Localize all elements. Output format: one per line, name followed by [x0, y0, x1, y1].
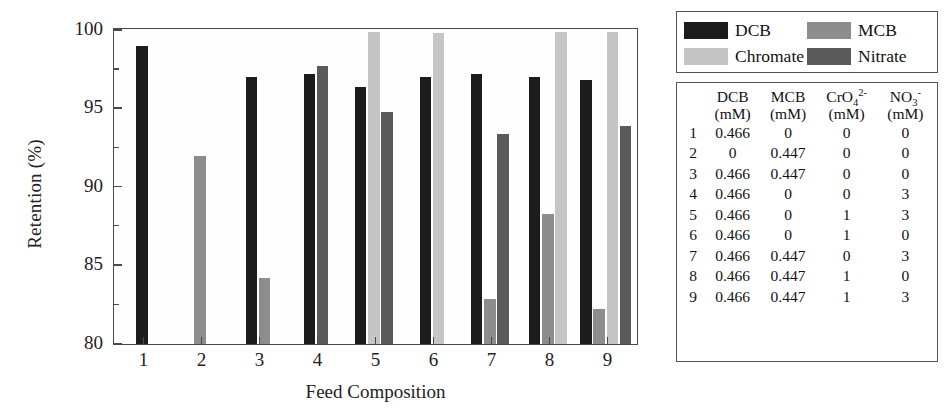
y-axis-tick-mark	[114, 29, 122, 31]
table-row: 10.466000	[681, 122, 933, 143]
table-header-index-unit	[681, 106, 705, 123]
table-unit-mcb: (mM)	[760, 106, 815, 123]
x-axis-tick-mark	[317, 337, 319, 344]
bar-mcb-group-9	[593, 309, 605, 344]
cell-dcb: 0.466	[705, 204, 760, 225]
x-axis-tick-label: 3	[255, 349, 265, 371]
row-index: 4	[681, 184, 705, 205]
x-axis-tick-label: 2	[197, 349, 207, 371]
bar-dcb-group-5	[355, 87, 367, 344]
legend-swatch-nitrate	[807, 48, 851, 65]
cell-nitrate: 3	[878, 204, 933, 225]
table-header-nitrate: NO3-	[878, 89, 933, 106]
y-axis-minor-tick-mark	[114, 304, 119, 305]
cell-chromate: 1	[816, 225, 878, 246]
table-unit-dcb: (mM)	[705, 106, 760, 123]
table-row: 60.466010	[681, 225, 933, 246]
bar-nitrate-group-4	[317, 66, 329, 344]
bar-dcb-group-1	[136, 46, 148, 344]
bar-nitrate-group-5	[381, 112, 393, 344]
cell-chromate: 0	[816, 122, 878, 143]
x-axis-tick-label: 1	[139, 349, 149, 371]
x-axis-tick-label: 9	[603, 349, 613, 371]
table-body: 10.466000200.4470030.4660.4470040.466003…	[681, 122, 933, 307]
cell-nitrate: 3	[878, 184, 933, 205]
cell-chromate: 1	[816, 266, 878, 287]
y-axis-minor-tick-mark	[114, 147, 119, 148]
y-axis-tick-mark	[114, 343, 122, 345]
row-index: 6	[681, 225, 705, 246]
y-axis-tick-label: 85	[84, 253, 103, 275]
row-index: 3	[681, 163, 705, 184]
cell-chromate: 1	[816, 204, 878, 225]
x-axis-tick-mark	[433, 337, 435, 344]
figure-root: Retention (%) 80859095100 123456789 Feed…	[0, 0, 952, 420]
bar-chromate-group-6	[433, 33, 445, 344]
cell-nitrate: 0	[878, 225, 933, 246]
table-row: 90.4660.44713	[681, 286, 933, 307]
cell-mcb: 0.447	[760, 266, 815, 287]
legend-label-chromate: Chromate	[735, 46, 804, 67]
x-axis-tick-mark	[491, 337, 493, 344]
x-axis-tick-label: 8	[545, 349, 555, 371]
legend-item-dcb: DCB	[684, 20, 807, 41]
legend-swatch-mcb	[807, 22, 851, 39]
y-axis-tick-mark	[114, 107, 122, 109]
cell-chromate: 1	[816, 286, 878, 307]
x-axis-tick-label: 4	[313, 349, 323, 371]
y-axis-tick-mark	[114, 186, 122, 188]
cell-nitrate: 0	[878, 122, 933, 143]
bar-chromate-group-8	[555, 32, 567, 344]
nitrate-charge: -	[917, 87, 921, 98]
legend-label-nitrate: Nitrate	[858, 46, 907, 67]
cell-dcb: 0.466	[705, 184, 760, 205]
cell-mcb: 0.447	[760, 245, 815, 266]
x-axis-tick-label: 7	[487, 349, 497, 371]
bar-mcb-group-3	[259, 278, 271, 344]
legend-row: Chromate Nitrate	[684, 43, 930, 69]
bar-chromate-group-9	[607, 32, 619, 344]
cell-dcb: 0.466	[705, 286, 760, 307]
x-axis-label: Feed Composition	[113, 381, 638, 403]
cell-nitrate: 3	[878, 245, 933, 266]
legend-label-mcb: MCB	[858, 20, 897, 41]
cell-nitrate: 0	[878, 143, 933, 164]
table-header-dcb: DCB	[705, 89, 760, 106]
table-header-row-names: DCB MCB CrO42- NO3-	[681, 89, 933, 106]
chart-legend: DCB MCB Chromate Nitrate	[676, 11, 938, 73]
cell-dcb: 0.466	[705, 163, 760, 184]
table-header-mcb: MCB	[760, 89, 815, 106]
x-axis-tick-label: 5	[371, 349, 381, 371]
cell-nitrate: 0	[878, 266, 933, 287]
plot-frame: 80859095100	[113, 28, 638, 345]
y-axis-tick-label: 90	[84, 174, 103, 196]
cell-mcb: 0	[760, 122, 815, 143]
bar-nitrate-group-9	[620, 126, 632, 344]
bar-dcb-group-3	[246, 77, 258, 344]
cell-dcb: 0.466	[705, 266, 760, 287]
y-axis-tick-label: 100	[75, 18, 104, 40]
cell-dcb: 0.466	[705, 122, 760, 143]
legend-swatch-dcb	[684, 22, 728, 39]
cell-chromate: 0	[816, 184, 878, 205]
bar-dcb-group-9	[580, 80, 592, 344]
cell-mcb: 0	[760, 204, 815, 225]
cell-mcb: 0.447	[760, 163, 815, 184]
cell-chromate: 0	[816, 163, 878, 184]
x-axis-tick-mark	[607, 337, 609, 344]
bar-mcb-group-2	[194, 156, 206, 344]
legend-item-mcb: MCB	[807, 20, 930, 41]
plot-area: 80859095100	[114, 29, 637, 344]
row-index: 5	[681, 204, 705, 225]
legend-swatch-chromate	[684, 48, 728, 65]
bar-dcb-group-4	[304, 74, 316, 344]
row-index: 8	[681, 266, 705, 287]
table-row: 40.466003	[681, 184, 933, 205]
bar-dcb-group-8	[529, 77, 541, 344]
row-index: 1	[681, 122, 705, 143]
legend-label-dcb: DCB	[735, 20, 771, 41]
y-axis-minor-tick-mark	[114, 225, 119, 226]
table-row: 70.4660.44703	[681, 245, 933, 266]
cell-nitrate: 0	[878, 163, 933, 184]
bar-dcb-group-6	[420, 77, 432, 344]
